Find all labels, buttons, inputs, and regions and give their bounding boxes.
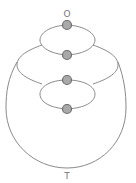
edge-upper-ellipse-right [67,25,95,55]
edge-middle-lobe-left [17,45,42,84]
node-1 [63,21,72,30]
node-2 [63,51,72,60]
edge-middle-lobe-right [93,45,118,84]
source-label: O [63,9,70,19]
target-label: T [63,171,70,181]
diagram-canvas: O T [0,0,136,183]
node-3 [63,76,72,85]
edge-lower-ellipse-right [67,80,95,109]
edge-lower-ellipse-left [40,80,67,109]
edge-upper-ellipse-left [40,25,67,55]
node-4 [63,105,72,114]
